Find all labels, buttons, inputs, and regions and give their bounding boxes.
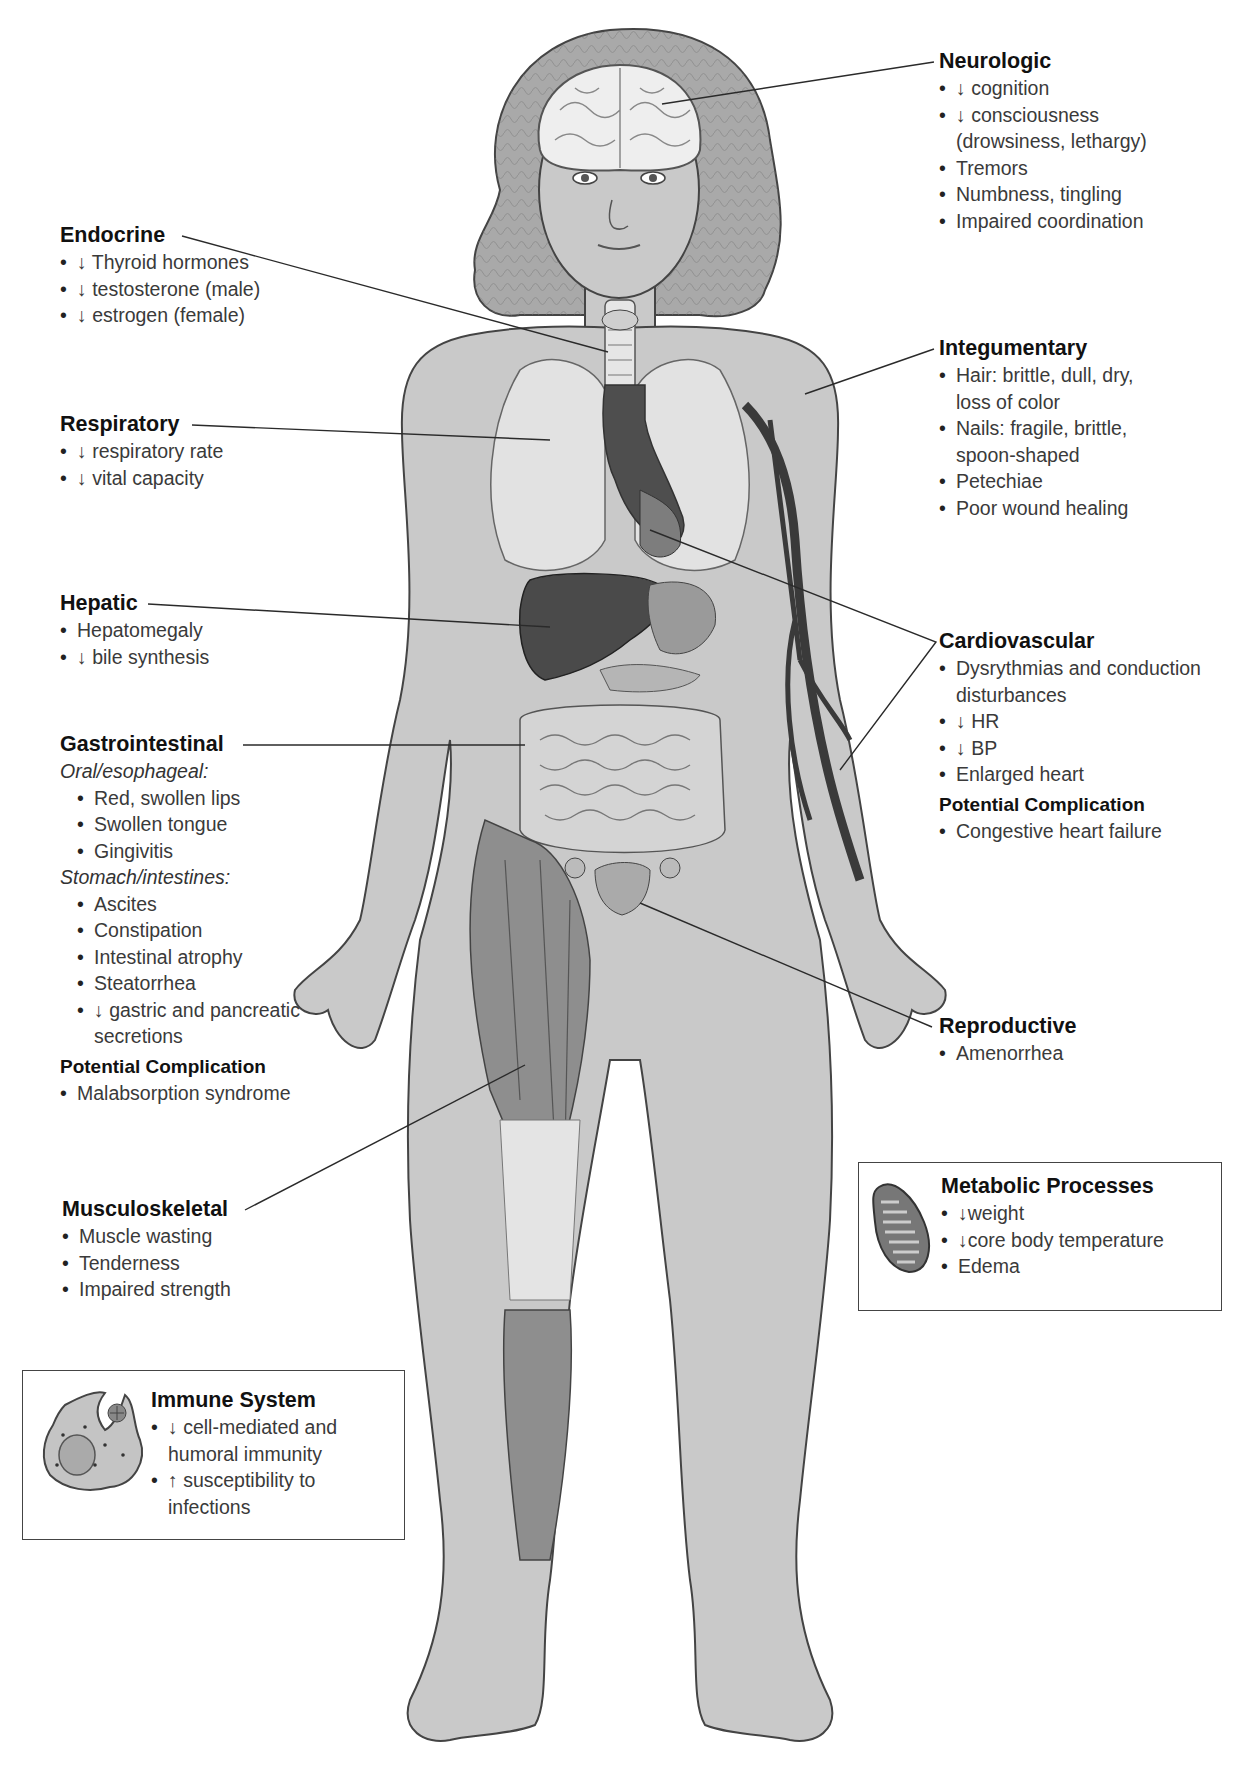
list-item: Enlarged heart [939, 761, 1239, 788]
list-item: ↓weight [941, 1200, 1216, 1227]
cardiovascular-list: Dysrythmias and conduction disturbances … [939, 655, 1239, 788]
reproductive-label: Reproductive Amenorrhea [939, 1013, 1159, 1067]
immune-list: ↓ cell-mediated and humoral immunity ↑ s… [151, 1414, 401, 1520]
musculoskeletal-title: Musculoskeletal [62, 1196, 322, 1223]
list-item: Tenderness [62, 1250, 322, 1277]
list-item: ↓ Thyroid hormones [60, 249, 340, 276]
knee [500, 1120, 580, 1300]
list-item: Nails: fragile, brittle, spoon-shaped [939, 415, 1169, 468]
gastrointestinal-title: Gastrointestinal [60, 731, 350, 758]
list-item: Ascites [77, 891, 350, 918]
reproductive-list: Amenorrhea [939, 1040, 1159, 1067]
musculoskeletal-list: Muscle wasting Tenderness Impaired stren… [62, 1223, 322, 1303]
list-item: ↓ cognition [939, 75, 1239, 102]
metabolic-box: Metabolic Processes ↓weight ↓core body t… [858, 1162, 1222, 1311]
hepatic-title: Hepatic [60, 590, 320, 617]
list-item: ↓ estrogen (female) [60, 302, 340, 329]
metabolic-title: Metabolic Processes [941, 1173, 1216, 1200]
respiratory-title: Respiratory [60, 411, 320, 438]
list-item: Intestinal atrophy [77, 944, 350, 971]
list-item: Poor wound healing [939, 495, 1169, 522]
neurologic-list: ↓ cognition ↓ consciousness (drowsiness,… [939, 75, 1239, 234]
hepatic-list: Hepatomegaly ↓ bile synthesis [60, 617, 320, 670]
respiratory-list: ↓ respiratory rate ↓ vital capacity [60, 438, 320, 491]
list-item: Malabsorption syndrome [60, 1080, 350, 1107]
list-item: Impaired coordination [939, 208, 1239, 235]
list-item: Petechiae [939, 468, 1169, 495]
neurologic-title: Neurologic [939, 48, 1239, 75]
cardiovascular-complication-list: Congestive heart failure [939, 818, 1239, 845]
stomach-heading: Stomach/intestines: [60, 864, 350, 891]
macrophage-icon [35, 1385, 155, 1495]
oral-list: Red, swollen lips Swollen tongue Gingivi… [60, 785, 350, 865]
integumentary-list: Hair: brittle, dull, dry, loss of color … [939, 362, 1169, 521]
list-item: Swollen tongue [77, 811, 350, 838]
list-item: Congestive heart failure [939, 818, 1239, 845]
immune-box: Immune System ↓ cell-mediated and humora… [22, 1370, 405, 1540]
list-item: Hepatomegaly [60, 617, 320, 644]
list-item: ↓ vital capacity [60, 465, 320, 492]
list-item: Numbness, tingling [939, 181, 1239, 208]
list-item: ↓ respiratory rate [60, 438, 320, 465]
integumentary-title: Integumentary [939, 335, 1169, 362]
list-item: Tremors [939, 155, 1239, 182]
cardiovascular-label: Cardiovascular Dysrythmias and conductio… [939, 628, 1239, 844]
list-item: ↓ bile synthesis [60, 644, 320, 671]
list-item: ↓ BP [939, 735, 1239, 762]
list-item: ↓ consciousness (drowsiness, lethargy) [939, 102, 1196, 155]
gastrointestinal-complication-title: Potential Complication [60, 1054, 350, 1080]
stomach-list: Ascites Constipation Intestinal atrophy … [60, 891, 350, 1050]
list-item: Red, swollen lips [77, 785, 350, 812]
list-item: ↑ susceptibility to infections [151, 1467, 343, 1520]
list-item: Edema [941, 1253, 1216, 1280]
list-item: ↓ testosterone (male) [60, 276, 340, 303]
list-item: Constipation [77, 917, 350, 944]
mitochondrion-icon [869, 1177, 937, 1277]
list-item: Gingivitis [77, 838, 350, 865]
list-item: Dysrythmias and conduction disturbances [939, 655, 1226, 708]
gastrointestinal-label: Gastrointestinal Oral/esophageal: Red, s… [60, 731, 350, 1106]
gastrointestinal-complication-list: Malabsorption syndrome [60, 1080, 350, 1107]
list-item: Amenorrhea [939, 1040, 1159, 1067]
list-item: Hair: brittle, dull, dry, loss of color [939, 362, 1169, 415]
immune-title: Immune System [151, 1387, 401, 1414]
integumentary-label: Integumentary Hair: brittle, dull, dry, … [939, 335, 1169, 521]
cardiovascular-title: Cardiovascular [939, 628, 1239, 655]
metabolic-list: ↓weight ↓core body temperature Edema [941, 1200, 1216, 1280]
musculoskeletal-label: Musculoskeletal Muscle wasting Tendernes… [62, 1196, 322, 1303]
endocrine-label: Endocrine ↓ Thyroid hormones ↓ testoster… [60, 222, 340, 329]
list-item: ↓core body temperature [941, 1227, 1216, 1254]
endocrine-title: Endocrine [60, 222, 340, 249]
intestines [520, 705, 725, 853]
list-item: Impaired strength [62, 1276, 322, 1303]
reproductive-title: Reproductive [939, 1013, 1159, 1040]
list-item: Steatorrhea [77, 970, 350, 997]
list-item: ↓ HR [939, 708, 1239, 735]
list-item: Muscle wasting [62, 1223, 322, 1250]
neurologic-label: Neurologic ↓ cognition ↓ consciousness (… [939, 48, 1239, 234]
oral-heading: Oral/esophageal: [60, 758, 350, 785]
respiratory-label: Respiratory ↓ respiratory rate ↓ vital c… [60, 411, 320, 491]
list-item: ↓ cell-mediated and humoral immunity [151, 1414, 363, 1467]
cardiovascular-complication-title: Potential Complication [939, 792, 1239, 818]
endocrine-list: ↓ Thyroid hormones ↓ testosterone (male)… [60, 249, 340, 329]
hepatic-label: Hepatic Hepatomegaly ↓ bile synthesis [60, 590, 320, 670]
list-item: ↓ gastric and pancreatic secretions [77, 997, 314, 1050]
